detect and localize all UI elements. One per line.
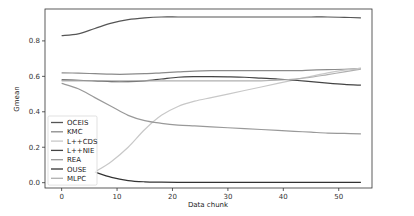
- y-tick-label: 0.0: [29, 179, 40, 187]
- x-tick-label: 20: [168, 193, 177, 201]
- legend-label: L++NIE: [67, 147, 94, 155]
- line-chart: 01020304050 0.00.20.40.60.8 Data chunk G…: [0, 0, 414, 216]
- x-tick-label: 10: [113, 193, 122, 201]
- y-axis-label: Gmean: [13, 86, 21, 111]
- x-tick-label: 40: [279, 193, 288, 201]
- legend-label: KMC: [67, 128, 83, 136]
- x-axis-label: Data chunk: [188, 201, 229, 209]
- legend-label: L++CDS: [67, 138, 98, 146]
- series-line-rea: [62, 83, 361, 134]
- legend-label: OCEIS: [67, 119, 89, 127]
- legend-label: MLPC: [67, 175, 86, 183]
- y-tick-label: 0.6: [29, 73, 41, 81]
- series-line-ouse: [95, 172, 361, 182]
- series-line-kmc: [62, 68, 361, 74]
- y-tick-label: 0.2: [29, 144, 40, 152]
- plot-lines: [62, 17, 361, 182]
- legend: OCEISKMCL++CDSL++NIEREAOUSEMLPC: [48, 116, 98, 185]
- x-tick-label: 30: [223, 193, 232, 201]
- legend-label: REA: [67, 156, 81, 164]
- legend-label: OUSE: [67, 166, 87, 174]
- x-tick-label: 50: [334, 193, 343, 201]
- series-line-oceis: [62, 17, 361, 36]
- x-tick-label: 0: [59, 193, 63, 201]
- y-axis-ticks: 0.00.20.40.60.8: [29, 37, 45, 187]
- y-tick-label: 0.4: [29, 108, 41, 116]
- series-line-lppcds: [95, 68, 361, 172]
- y-tick-label: 0.8: [29, 37, 40, 45]
- x-axis-ticks: 01020304050: [59, 188, 343, 201]
